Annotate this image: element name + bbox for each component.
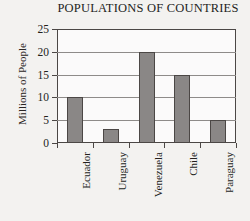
y-tick-mark bbox=[52, 29, 57, 30]
bar-chart: POPULATIONS OF COUNTRIES Millions of Peo… bbox=[0, 0, 250, 221]
y-tick-mark bbox=[52, 97, 57, 98]
y-tick-label: 10 bbox=[25, 91, 49, 103]
bar bbox=[139, 52, 155, 143]
bar bbox=[174, 75, 190, 143]
y-tick-label: 5 bbox=[25, 114, 49, 126]
x-category-label: Venezuela bbox=[152, 152, 164, 221]
x-tick-mark bbox=[57, 143, 58, 148]
x-category-label: Paraguay bbox=[223, 152, 235, 221]
y-tick-label: 25 bbox=[25, 23, 49, 35]
x-tick-mark bbox=[236, 143, 237, 148]
y-tick-mark bbox=[52, 75, 57, 76]
bar bbox=[210, 120, 226, 143]
bar bbox=[67, 97, 83, 143]
y-tick-mark bbox=[52, 120, 57, 121]
x-tick-mark bbox=[164, 143, 165, 148]
x-category-label: Ecuador bbox=[80, 152, 92, 221]
y-axis-title: Millions of People bbox=[16, 24, 28, 144]
x-tick-mark bbox=[200, 143, 201, 148]
chart-title: POPULATIONS OF COUNTRIES bbox=[52, 1, 244, 16]
y-tick-mark bbox=[52, 52, 57, 53]
x-tick-mark bbox=[129, 143, 130, 148]
x-category-label: Chile bbox=[187, 152, 199, 221]
y-tick-label: 15 bbox=[25, 69, 49, 81]
bar bbox=[103, 129, 119, 143]
y-tick-label: 20 bbox=[25, 46, 49, 58]
x-category-label: Uruguay bbox=[116, 152, 128, 221]
y-tick-label: 0 bbox=[25, 137, 49, 149]
x-tick-mark bbox=[93, 143, 94, 148]
